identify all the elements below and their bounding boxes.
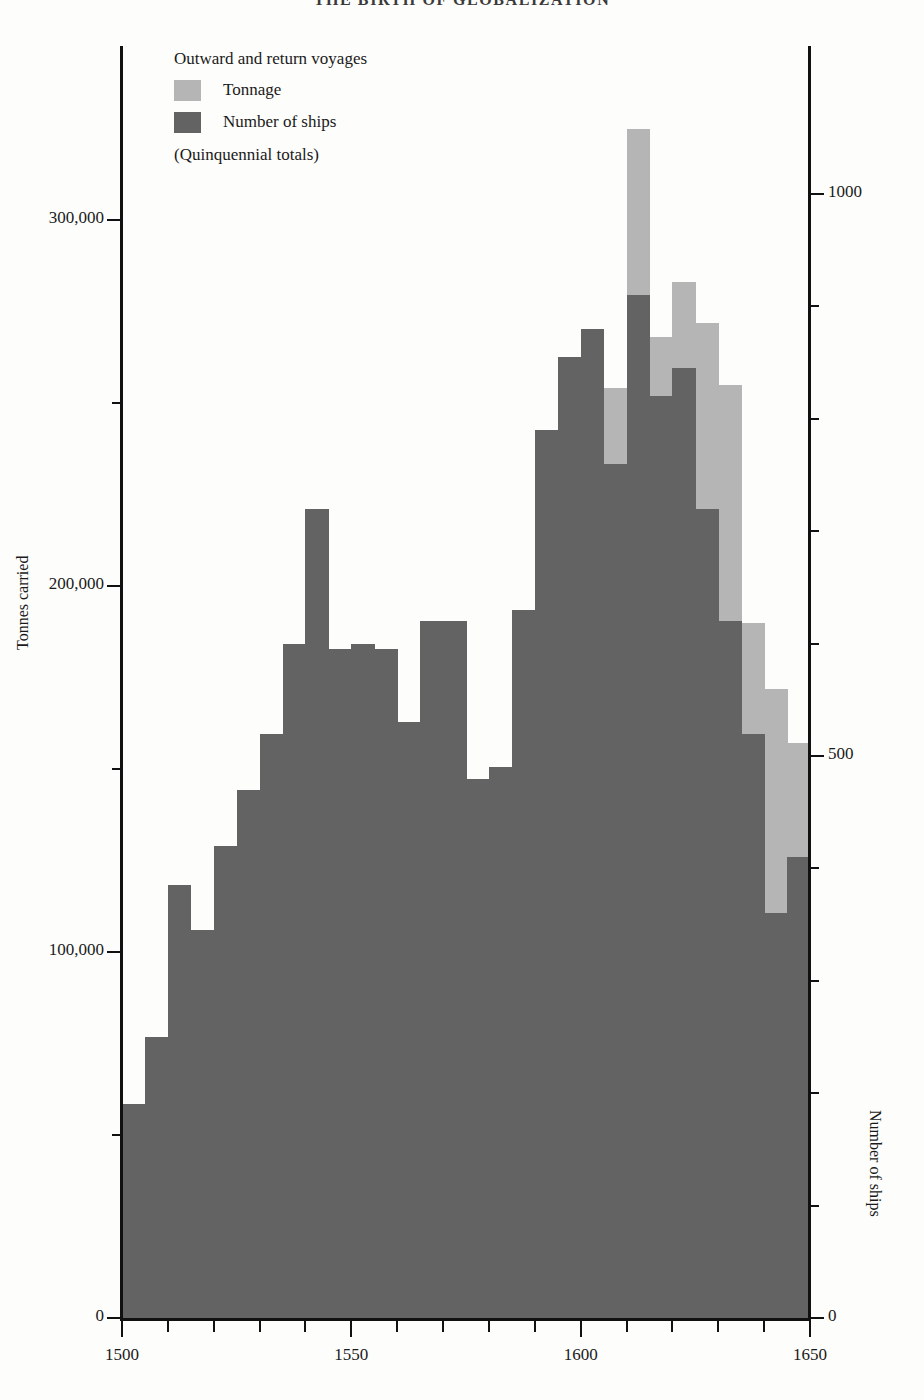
y-axis-left-tick — [112, 1134, 120, 1136]
y-axis-right-line — [808, 46, 811, 1320]
bar-ships — [145, 1037, 169, 1318]
x-axis-tick — [763, 1321, 765, 1332]
y-axis-right-tick — [811, 1205, 819, 1207]
legend-note: (Quinquennial totals) — [174, 146, 367, 164]
bar-ships — [466, 779, 490, 1318]
y-axis-right-tick — [811, 755, 824, 757]
x-axis-tick — [304, 1321, 306, 1332]
plot-area — [122, 48, 810, 1318]
bar-ships — [260, 734, 284, 1318]
bar-ships — [283, 644, 307, 1318]
bar-ships — [627, 295, 651, 1318]
x-axis-tick-label: 1500 — [82, 1345, 162, 1365]
bar-ships — [741, 734, 765, 1318]
x-axis-tick — [671, 1321, 673, 1332]
chart-figure: 300,000200,000100,0000 10005000 15001550… — [0, 0, 924, 1400]
bar-ships — [214, 846, 238, 1318]
bar-ships — [764, 913, 788, 1318]
bar-ships — [649, 396, 673, 1318]
y-axis-left-tick — [107, 1317, 120, 1319]
bar-ships — [443, 621, 467, 1318]
y-axis-left-tick-label: 100,000 — [0, 940, 104, 960]
x-axis-tick — [167, 1321, 169, 1332]
y-axis-left-tick — [112, 402, 120, 404]
bar-ships — [535, 430, 559, 1318]
y-axis-left-line — [120, 46, 123, 1320]
bar-ships — [604, 464, 628, 1318]
bar-ships — [489, 767, 513, 1318]
x-axis-tick — [213, 1321, 215, 1332]
y-axis-right-tick — [811, 1317, 824, 1319]
y-axis-right-tick — [811, 867, 819, 869]
legend-heading: Outward and return voyages — [174, 50, 367, 68]
y-axis-left-tick-label: 300,000 — [0, 208, 104, 228]
bar-ships — [672, 368, 696, 1318]
y-axis-left-tick — [107, 951, 120, 953]
y-axis-right-tick-label: 0 — [828, 1306, 837, 1326]
y-axis-right-tick — [811, 418, 819, 420]
bar-ships — [237, 790, 261, 1318]
bar-ships — [305, 509, 329, 1318]
bar-ships — [581, 329, 605, 1318]
bar-ships — [191, 930, 215, 1318]
bar-ships — [420, 621, 444, 1318]
legend-item-ships: Number of ships — [174, 112, 367, 133]
y-axis-right-tick-label: 500 — [828, 744, 854, 764]
bar-ships — [718, 621, 742, 1318]
bars-container — [122, 48, 810, 1318]
bar-ships — [397, 722, 421, 1318]
bar-ships — [122, 1104, 146, 1318]
x-axis-tick — [442, 1321, 444, 1332]
x-axis-tick — [626, 1321, 628, 1332]
x-axis-tick — [534, 1321, 536, 1332]
x-axis-tick-label: 1600 — [541, 1345, 621, 1365]
bar-ships — [512, 610, 536, 1318]
x-axis-tick-label: 1550 — [311, 1345, 391, 1365]
y-axis-left-title: Tonnes carried — [14, 556, 32, 650]
y-axis-right-tick — [811, 643, 819, 645]
x-axis-tick — [350, 1321, 352, 1337]
y-axis-right-tick-label: 1000 — [828, 182, 862, 202]
y-axis-right-tick — [811, 980, 819, 982]
y-axis-right-tick — [811, 530, 819, 532]
x-axis-tick — [396, 1321, 398, 1332]
y-axis-right-tick — [811, 1092, 819, 1094]
x-axis-tick — [809, 1321, 811, 1337]
y-axis-right-tick — [811, 305, 819, 307]
x-axis-line — [120, 1318, 811, 1321]
ships-swatch-icon — [174, 112, 201, 133]
legend-label-ships: Number of ships — [223, 113, 336, 131]
x-axis-tick — [488, 1321, 490, 1332]
bar-ships — [695, 509, 719, 1318]
y-axis-left-tick-label: 0 — [0, 1306, 104, 1326]
x-axis-tick — [121, 1321, 123, 1337]
x-axis-tick-label: 1650 — [770, 1345, 850, 1365]
chart-legend: Outward and return voyages Tonnage Numbe… — [174, 50, 367, 164]
bar-ships — [351, 644, 375, 1318]
x-axis-tick — [259, 1321, 261, 1332]
x-axis-tick — [580, 1321, 582, 1337]
y-axis-right-title: Number of ships — [866, 1110, 884, 1217]
y-axis-left-tick — [107, 219, 120, 221]
y-axis-left-tick — [112, 768, 120, 770]
bar-ships — [168, 885, 192, 1318]
bar-ships — [328, 649, 352, 1318]
y-axis-left-tick — [107, 585, 120, 587]
legend-item-tonnage: Tonnage — [174, 80, 367, 101]
x-axis-tick — [717, 1321, 719, 1332]
tonnage-swatch-icon — [174, 80, 201, 101]
bar-ships — [558, 357, 582, 1318]
y-axis-right-tick — [811, 193, 824, 195]
bar-ships — [374, 649, 398, 1318]
legend-label-tonnage: Tonnage — [223, 81, 281, 99]
